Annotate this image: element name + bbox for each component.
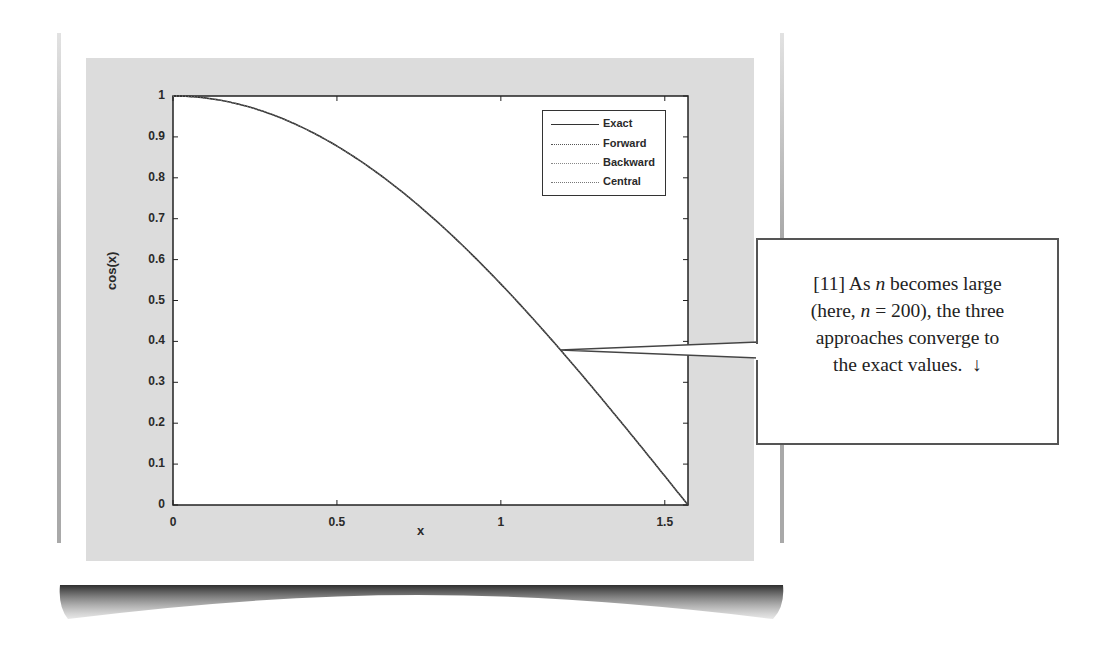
callout-line-2: (here, n = 200), the three [756,297,1059,324]
y-tick-label: 0.6 [125,252,165,266]
y-tick-label: 0.9 [125,129,165,143]
legend: Exact Forward Backward Central [542,110,666,196]
legend-swatch-dotted [551,144,599,145]
y-tick-label: 0.5 [125,293,165,307]
legend-label: Backward [603,156,655,168]
legend-label: Forward [603,137,646,149]
legend-label: Exact [603,117,632,129]
y-tick-label: 0.7 [125,211,165,225]
legend-item-backward: Backward [549,154,665,174]
legend-item-forward: Forward [549,135,665,155]
legend-swatch-dotted [551,182,599,183]
legend-item-exact: Exact [549,115,665,135]
y-tick-label: 0.2 [125,415,165,429]
x-tick-label: 1.5 [645,515,685,529]
y-tick-label: 0.3 [125,374,165,388]
y-tick-label: 0.1 [125,456,165,470]
callout-line-4: the exact values. ↓ [756,351,1059,378]
legend-swatch-solid [551,124,599,125]
x-axis-label: x [417,523,424,538]
callout-box: [11] As n becomes large (here, n = 200),… [756,238,1059,445]
legend-item-central: Central [549,173,665,193]
y-tick-label: 0.8 [125,170,165,184]
y-tick-label: 0 [125,497,165,511]
y-axis-label: cos(x) [104,252,119,290]
x-tick-label: 0.5 [317,515,357,529]
legend-swatch-dotted [551,163,599,164]
callout-text: [11] As n becomes large (here, n = 200),… [756,270,1059,378]
x-tick-label: 0 [153,515,193,529]
callout-line-3: approaches converge to [756,324,1059,351]
y-tick-label: 1 [125,88,165,102]
legend-label: Central [603,175,641,187]
x-tick-label: 1 [481,515,521,529]
y-tick-label: 0.4 [125,333,165,347]
callout-line-1: [11] As n becomes large [756,270,1059,297]
down-arrow-icon: ↓ [972,354,982,375]
